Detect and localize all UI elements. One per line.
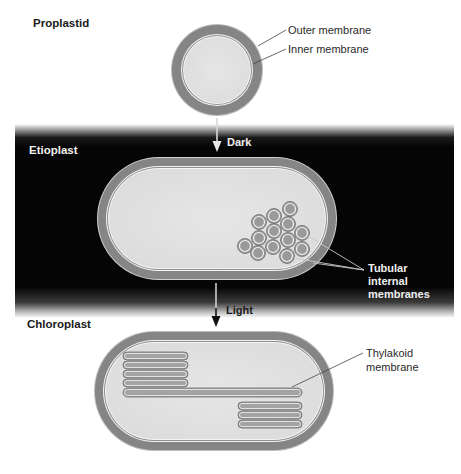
proplastid-shape [171,24,263,116]
etioplast-shape [97,157,337,280]
tubular-membranes-label: Tubular internal membranes [368,262,430,301]
dark-transition-label: Dark [227,136,251,149]
tubular-label-line-2: internal [368,275,430,288]
thylakoid-granum-right [238,402,302,428]
inner-membrane-label: Inner membrane [288,43,369,56]
proplastid-title: Proplastid [33,17,89,30]
plastid-development-diagram: Proplastid Outer membrane Inner membrane… [0,0,461,474]
tubular-label-line-3: membranes [368,288,430,301]
light-transition-label: Light [226,304,253,317]
outer-membrane-leader-line [258,30,286,46]
tubular-label-line-1: Tubular [368,262,430,275]
thylakoid-label-line-2: membrane [366,360,419,374]
diagram-canvas [0,0,461,474]
etioplast-title: Etioplast [29,144,78,157]
outer-membrane-label: Outer membrane [288,24,371,37]
thylakoid-membrane-label: Thylakoid membrane [366,346,419,374]
chloroplast-title: Chloroplast [27,318,91,331]
thylakoid-label-line-1: Thylakoid [366,346,419,360]
